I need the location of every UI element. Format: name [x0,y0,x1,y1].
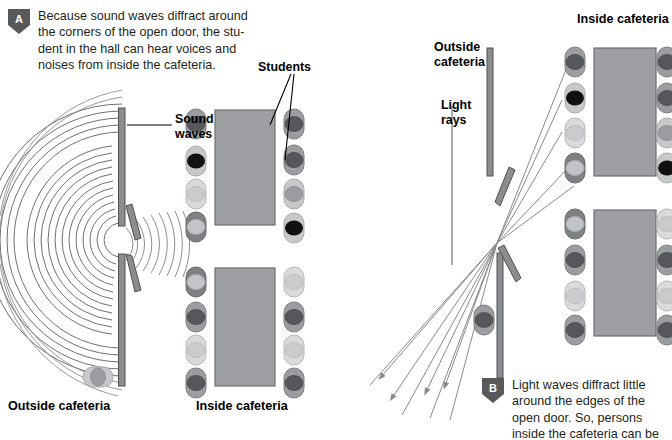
badge-a-letter: A [15,13,23,25]
panel-a-tables [215,110,275,386]
label-light-rays-line-2: rays [441,113,471,128]
caption-b-line-4: inside the cafeteria can be [512,426,672,440]
label-outside-cafeteria-b: Outside cafeteria [434,40,485,69]
label-sound-waves-line-1: Sound [175,112,214,127]
panel-b-tables [594,48,656,336]
panel-b-person-outside [474,305,494,335]
caption-b-line-2: around the edges of the [512,393,672,409]
caption-b-line-1: Light waves diffract little [512,377,672,393]
panel-a-person-outside [83,367,113,387]
label-inside-cafeteria-a: Inside cafeteria [196,399,288,415]
caption-a-line-3: dent in the hall can hear voices and [38,41,298,57]
label-outside-cafeteria-a: Outside cafeteria [8,399,110,415]
panel-a-doors [126,204,141,292]
caption-a-line-2: the corners of the open door, the stu- [38,24,298,40]
label-light-rays: Light rays [441,98,471,127]
label-sound-waves-line-2: waves [175,127,214,142]
badge-a-icon: A [8,9,30,34]
caption-b-line-3: open door. So, persons [512,410,672,426]
label-outside-cafeteria-b-line-1: Outside [434,40,485,55]
label-outside-cafeteria-b-line-2: cafeteria [434,55,485,70]
figure-root: A Because sound waves diffract around th… [0,0,672,440]
label-inside-cafeteria-b: Inside cafeteria [577,12,669,28]
caption-a-line-1: Because sound waves diffract around [38,8,298,24]
badge-b-icon: B [482,378,504,403]
panel-b-caption: Light waves diffract little around the e… [512,377,672,440]
panel-a-wall [119,108,126,386]
badge-b-letter: B [489,382,497,394]
label-students: Students [258,60,311,75]
label-light-rays-line-1: Light [441,98,471,113]
label-sound-waves: Sound waves [175,112,214,141]
panel-b-rays [370,62,574,420]
panel-a-waves [0,90,190,396]
